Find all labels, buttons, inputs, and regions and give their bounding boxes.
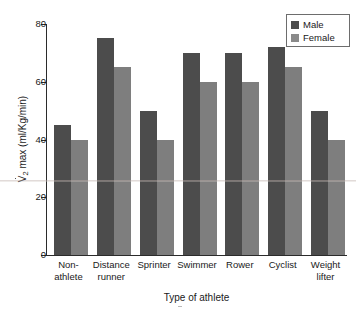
bar-female: [328, 140, 345, 256]
bar-male: [97, 38, 114, 255]
v-dot-symbol: V: [17, 176, 28, 183]
x-axis-line: [46, 255, 347, 256]
bar-male: [54, 125, 71, 255]
legend-label-male: Male: [303, 20, 324, 30]
legend-swatch-female-icon: [291, 34, 299, 42]
bar-group: [304, 24, 347, 255]
bar-female: [71, 140, 88, 256]
bar-group: [90, 24, 133, 255]
bar-group: [133, 24, 176, 255]
bar-male: [140, 111, 157, 255]
bar-group: [218, 24, 261, 255]
bar-male: [225, 53, 242, 255]
bar-group: [176, 24, 219, 255]
bar-female: [285, 67, 302, 255]
bar-male: [311, 111, 328, 255]
bar-female: [200, 82, 217, 255]
category-label-line: runner: [84, 271, 139, 283]
y-axis-tick-value: 80: [24, 19, 46, 29]
legend-item-female: Female: [291, 31, 349, 44]
x-axis-title: Type of athlete: [46, 292, 347, 303]
bar-male: [268, 47, 285, 255]
bar-female: [114, 67, 131, 255]
bar-female: [242, 82, 259, 255]
y-axis-tick-label: 80: [12, 19, 46, 29]
category-label-line: Weight: [298, 259, 353, 271]
y-axis-title: V2 max (ml/Kg/min): [17, 49, 31, 229]
y-axis-title-text: max (ml/Kg/min): [17, 96, 28, 172]
legend-item-male: Male: [291, 18, 349, 31]
category-label: Weightlifter: [298, 259, 353, 282]
bar-group: [47, 24, 90, 255]
plot-area: [47, 24, 347, 255]
category-label-line: lifter: [298, 271, 353, 283]
bar-male: [183, 53, 200, 255]
legend-label-female: Female: [303, 33, 335, 43]
bar-female: [157, 140, 174, 256]
bar-group: [261, 24, 304, 255]
legend-swatch-male-icon: [291, 21, 299, 29]
page-artifact-mark: [178, 306, 182, 307]
vo2-max-bar-chart: 020406080 V2 max (ml/Kg/min) Non-athlete…: [0, 0, 356, 314]
legend: Male Female: [286, 14, 350, 47]
